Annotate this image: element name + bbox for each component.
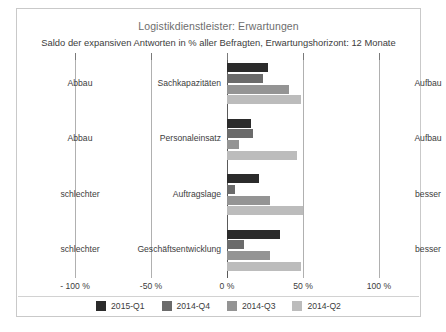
legend-label: 2014-Q2 <box>307 301 340 311</box>
bar <box>227 174 259 183</box>
chart-legend: 2015-Q12014-Q42014-Q32014-Q2 <box>17 301 420 311</box>
category-label: Auftragslage <box>71 189 221 199</box>
bar-group: schlechterAuftragslagebesser <box>18 167 419 223</box>
legend-swatch <box>162 301 172 311</box>
x-axis-tick-label: 50 % <box>293 281 313 291</box>
bar <box>227 95 301 104</box>
bar-group: AbbauPersonaleinsatzAufbau <box>18 112 419 168</box>
bar-group: AbbauSachkapazitätenAufbau <box>18 56 419 112</box>
chart-frame: Logistikdienstleister: Erwartungen Saldo… <box>16 8 421 317</box>
plot-area: AbbauSachkapazitätenAufbauAbbauPersonale… <box>18 56 419 278</box>
bar <box>227 129 253 138</box>
bar <box>227 85 289 94</box>
chart-title: Logistikdienstleister: Erwartungen <box>17 19 420 33</box>
bar-group: schlechterGeschäftsentwicklungbesser <box>18 223 419 279</box>
legend-item[interactable]: 2015-Q1 <box>96 301 144 311</box>
legend-item[interactable]: 2014-Q4 <box>162 301 210 311</box>
bar <box>227 151 297 160</box>
category-label: Sachkapazitäten <box>71 78 221 88</box>
bar <box>227 185 235 194</box>
legend-label: 2014-Q3 <box>242 301 275 311</box>
legend-label: 2015-Q1 <box>111 301 144 311</box>
x-axis-tick-label: 0 % <box>220 281 235 291</box>
x-axis-tick-labels: - 100 %-50 %0 %50 %100 % <box>18 281 419 297</box>
bar <box>227 140 239 149</box>
x-axis-tick-label: -50 % <box>140 281 162 291</box>
bar <box>227 119 251 128</box>
legend-swatch <box>227 301 237 311</box>
bar <box>227 240 244 249</box>
legend-item[interactable]: 2014-Q3 <box>227 301 275 311</box>
bar <box>227 74 263 83</box>
x-axis-tick-label: - 100 % <box>60 281 90 291</box>
chart-subtitle: Saldo der expansiven Antworten in % alle… <box>17 36 420 50</box>
legend-divider <box>18 296 419 297</box>
right-pole-label: besser <box>385 244 446 254</box>
bar <box>227 230 280 239</box>
bar <box>227 63 268 72</box>
right-pole-label: Aufbau <box>385 78 446 88</box>
bar <box>227 196 270 205</box>
category-label: Geschäftsentwicklung <box>71 244 221 254</box>
legend-item[interactable]: 2014-Q2 <box>292 301 340 311</box>
legend-label: 2014-Q4 <box>177 301 210 311</box>
category-label: Personaleinsatz <box>71 133 221 143</box>
x-axis-tick-label: 100 % <box>367 281 391 291</box>
right-pole-label: besser <box>385 189 446 199</box>
bar <box>227 251 270 260</box>
title-block: Logistikdienstleister: Erwartungen Saldo… <box>17 19 420 50</box>
legend-swatch <box>96 301 106 311</box>
legend-swatch <box>292 301 302 311</box>
bar <box>227 262 301 271</box>
bar <box>227 206 303 215</box>
right-pole-label: Aufbau <box>385 133 446 143</box>
